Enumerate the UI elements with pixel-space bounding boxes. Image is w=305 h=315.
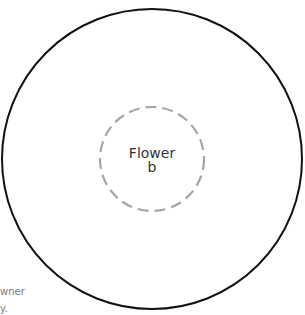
flower-label-line2: b — [102, 160, 202, 174]
clipped-text-line2: y. — [0, 303, 8, 315]
flower-label: Flower b — [102, 146, 202, 174]
clipped-text-line1: wner — [0, 286, 25, 298]
flower-label-line1: Flower — [102, 146, 202, 160]
